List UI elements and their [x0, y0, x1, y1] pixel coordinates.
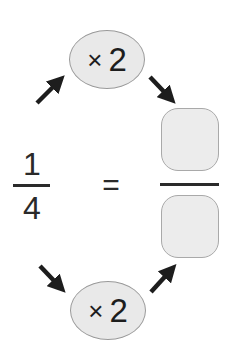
multiply-icon: ×	[87, 45, 102, 76]
answer-numerator-box[interactable]	[161, 108, 219, 171]
arrow-up-right-icon	[37, 81, 59, 103]
multiplier-value: 2	[109, 292, 127, 330]
equivalent-fraction-diagram: × 2 1 4 = × 2	[0, 0, 249, 347]
multiply-operator-top: × 2	[69, 30, 145, 89]
answer-fraction-bar	[160, 183, 219, 186]
multiply-icon: ×	[88, 296, 103, 327]
fraction-denominator: 4	[12, 192, 52, 224]
multiplier-value: 2	[108, 41, 126, 79]
multiply-operator-bottom: × 2	[70, 281, 146, 340]
answer-denominator-box[interactable]	[161, 195, 219, 258]
equals-sign: =	[102, 170, 120, 200]
fraction-numerator: 1	[12, 148, 52, 180]
fraction-bar	[13, 184, 50, 187]
arrow-down-right-icon	[150, 77, 170, 98]
arrow-down-right-icon	[40, 266, 60, 287]
arrow-up-right-icon	[151, 270, 171, 292]
